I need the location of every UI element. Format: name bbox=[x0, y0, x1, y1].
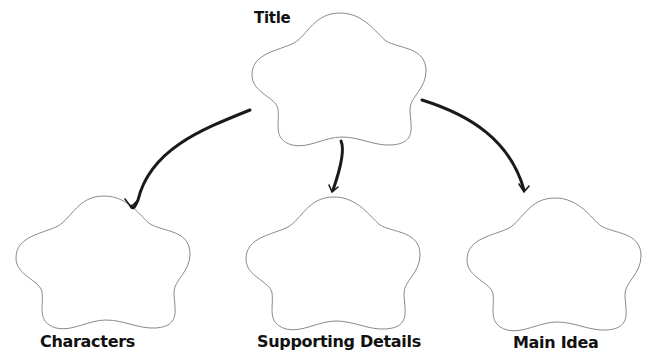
arrow-to-main-idea bbox=[422, 100, 529, 192]
diagram-canvas bbox=[0, 0, 654, 364]
main-idea-blob bbox=[467, 198, 641, 331]
supporting-details-blob bbox=[246, 197, 420, 330]
main-idea-label: Main Idea bbox=[513, 333, 599, 352]
supporting-details-label: Supporting Details bbox=[257, 332, 421, 351]
characters-label: Characters bbox=[40, 332, 135, 351]
characters-blob bbox=[16, 196, 190, 329]
arrow-to-characters bbox=[125, 110, 250, 208]
arrow-to-supporting bbox=[329, 141, 342, 192]
title-blob bbox=[252, 13, 426, 146]
title-label: Title bbox=[254, 9, 290, 27]
